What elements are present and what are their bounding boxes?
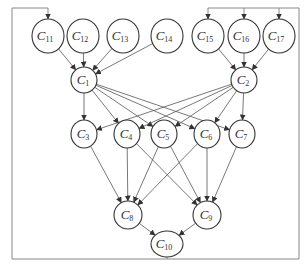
edge-c15-c2 [218,49,235,70]
node-c8: C8 [114,201,142,229]
flow-diagram: C11C12C13C14C15C16C17C1C2C3C4C5C6C7C8C9C… [0,0,308,276]
edge-c7-c9 [213,147,237,202]
node-c4: C4 [114,120,140,148]
node-c6: C6 [194,120,220,148]
node-c12: C12 [67,19,99,53]
edge-c5-c9 [170,146,200,202]
edge-c5-c8 [134,147,159,203]
node-c7: C7 [229,120,255,148]
edge-c2-c6 [215,91,237,123]
node-c2: C2 [231,67,257,93]
edge-c4-c8 [127,148,128,201]
node-c17: C17 [263,19,295,53]
edge-c17-c2 [252,49,269,70]
node-c5: C5 [151,120,177,148]
edge-c11-c1 [58,49,75,70]
edge-c2-c4 [139,85,232,128]
node-c15: C15 [192,19,224,53]
edge-c8-c10 [139,223,155,235]
edge-c9-c10 [179,223,196,235]
nodes: C11C12C13C14C15C16C17C1C2C3C4C5C6C7C8C9C… [32,19,295,257]
node-c1: C1 [71,67,97,93]
edge-c6-c8 [138,144,198,205]
node-c14: C14 [151,19,183,53]
node-c16: C16 [228,19,260,53]
edge-c3-c8 [91,146,122,203]
edge-c1-c4 [92,90,118,123]
edge-c2-c7 [243,93,244,120]
node-c10: C10 [151,231,183,257]
node-c13: C13 [107,19,139,53]
node-c11: C11 [32,19,64,53]
node-c3: C3 [71,120,97,148]
edge-c1-c6 [96,85,195,128]
edge-c4-c9 [136,144,197,205]
node-c9: C9 [193,201,221,229]
